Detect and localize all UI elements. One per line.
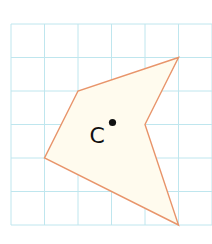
- center-dot: [109, 119, 116, 126]
- center-label: C: [90, 123, 105, 148]
- shape-diagram: C: [0, 0, 212, 244]
